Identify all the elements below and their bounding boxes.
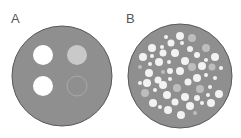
- dot: [159, 81, 167, 89]
- dot: [193, 111, 197, 115]
- dot: [139, 53, 147, 61]
- dot: [164, 106, 172, 114]
- dot: [171, 49, 179, 57]
- dot: [207, 99, 215, 107]
- dot: [163, 91, 171, 99]
- panel-b-dish: [128, 24, 232, 128]
- dot: [143, 79, 151, 87]
- dot: [167, 68, 173, 74]
- dish-circle: [12, 26, 112, 126]
- dot: [188, 63, 196, 71]
- dot: [188, 34, 196, 42]
- dot: [138, 65, 142, 69]
- dot: [67, 45, 87, 65]
- dot: [33, 45, 53, 65]
- dot: [138, 81, 142, 85]
- dot: [148, 44, 156, 52]
- dot: [186, 102, 194, 110]
- dot: [177, 111, 185, 119]
- dot: [204, 73, 208, 77]
- dot-diagram: [0, 0, 241, 138]
- dot: [209, 64, 216, 71]
- dot: [164, 35, 168, 39]
- dot: [194, 52, 200, 58]
- dot: [145, 69, 153, 77]
- dot: [198, 62, 206, 70]
- dot: [213, 76, 217, 80]
- panel-a-dish: [12, 26, 112, 126]
- dot: [200, 101, 204, 105]
- dot: [187, 46, 193, 52]
- dot: [160, 50, 167, 57]
- dot: [194, 95, 200, 101]
- dot: [33, 76, 53, 96]
- dot: [181, 57, 189, 65]
- dot: [196, 85, 204, 93]
- dot: [150, 54, 154, 58]
- dot: [161, 70, 165, 74]
- dot: [202, 44, 210, 52]
- dot: [176, 32, 184, 40]
- dot: [180, 41, 184, 45]
- dot: [141, 89, 149, 97]
- dot: [160, 45, 164, 49]
- dot: [173, 84, 181, 92]
- dot: [168, 40, 175, 47]
- dot: [153, 88, 157, 92]
- dot: [155, 58, 163, 66]
- dot: [158, 105, 162, 109]
- dot: [181, 93, 189, 101]
- dot: [168, 77, 172, 81]
- dot: [176, 67, 184, 75]
- dot: [185, 79, 192, 86]
- dot: [149, 99, 157, 107]
- dot: [211, 53, 219, 61]
- dot: [219, 66, 223, 70]
- dot: [215, 90, 223, 98]
- dot: [204, 58, 208, 62]
- dot: [148, 62, 152, 66]
- dot: [172, 99, 179, 106]
- dot: [167, 60, 171, 64]
- dot: [193, 74, 201, 82]
- dot: [206, 93, 210, 97]
- dot: [208, 85, 212, 89]
